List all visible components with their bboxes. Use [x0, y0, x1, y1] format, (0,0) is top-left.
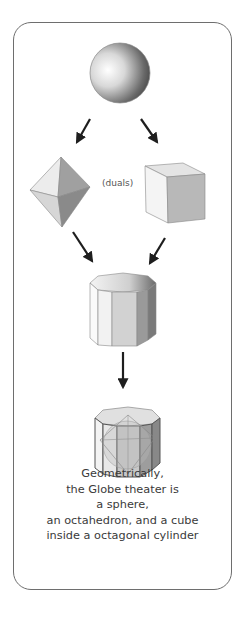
sphere-shape — [90, 43, 150, 103]
cube-shape — [145, 163, 205, 223]
arrow-sphere-octahedron — [77, 119, 90, 142]
caption-line: Geometrically, — [13, 466, 232, 482]
caption-line: an octahedron, and a cube — [13, 513, 232, 529]
caption: Geometrically, the Globe theater is a sp… — [13, 466, 232, 544]
octagonal-cylinder-shape — [90, 273, 156, 346]
arrows — [73, 119, 165, 387]
arrow-octahedron-cylinder — [73, 232, 92, 261]
octahedron-shape — [30, 157, 90, 227]
caption-line: the Globe theater is — [13, 482, 232, 498]
arrow-sphere-cube — [141, 119, 157, 142]
caption-line: inside a octagonal cylinder — [13, 528, 232, 544]
duals-label: (duals) — [102, 178, 133, 188]
caption-line: a sphere, — [13, 497, 232, 513]
arrow-cube-cylinder — [150, 238, 165, 263]
